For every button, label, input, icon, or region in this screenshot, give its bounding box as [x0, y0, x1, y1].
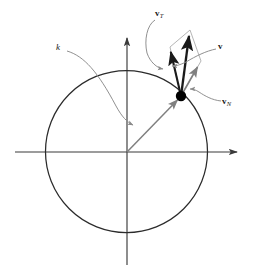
vector-diagram-figure: k vT v vN [0, 0, 258, 278]
label-v-normal-base: v [222, 96, 227, 106]
v-total-vector [181, 36, 189, 96]
label-v-tangential-sub: T [160, 12, 164, 19]
label-v-tangential: vT [155, 9, 163, 18]
radius-vector [127, 100, 178, 152]
label-v-normal-sub: N [227, 100, 231, 107]
v-tangential-vector [171, 52, 181, 96]
label-v-total: v [218, 42, 223, 51]
leader-line-v-tangential [146, 20, 163, 69]
point-on-circle [176, 91, 186, 101]
label-v-tangential-base: v [155, 8, 160, 18]
leader-line-v-normal [190, 89, 221, 101]
label-k: k [56, 43, 60, 52]
label-v-total-base: v [218, 41, 223, 51]
label-v-normal: vN [222, 97, 231, 106]
axes-group [15, 38, 237, 265]
leader-line-v-total [172, 49, 216, 66]
